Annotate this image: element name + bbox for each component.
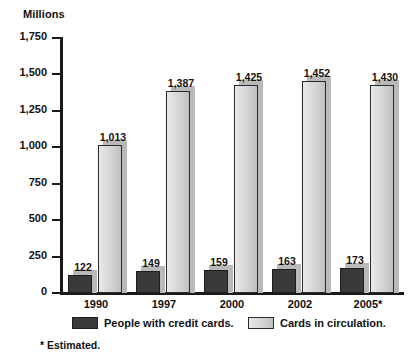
- bar-cards-in-circulation: 1,452: [302, 81, 326, 293]
- bar-people-with-credit-cards: 163: [272, 269, 296, 293]
- y-axis-tick-label: 0: [41, 285, 47, 297]
- x-axis-category-label: 2005*: [334, 298, 402, 310]
- bar-group: 1631,452: [266, 38, 334, 293]
- bar-value-label: 1,425: [236, 71, 262, 83]
- bar-chart: Millions 02505007501,0001,2501,5001,750 …: [0, 0, 410, 358]
- legend-swatch-light: [248, 317, 274, 329]
- y-axis-tick: 750: [52, 183, 61, 185]
- bar-value-label: 122: [74, 261, 92, 273]
- bar-cards-in-circulation: 1,425: [234, 85, 258, 293]
- bar-group: 1491,387: [130, 38, 198, 293]
- bar-cards-in-circulation: 1,013: [98, 145, 122, 293]
- legend-label-light: Cards in circulation.: [280, 317, 386, 329]
- x-axis-category-label: 1997: [130, 298, 198, 310]
- y-axis-tick-label: 1,500: [19, 66, 47, 78]
- y-axis-tick-label: 1,250: [19, 103, 47, 115]
- bar-cards-in-circulation: 1,430: [370, 85, 394, 293]
- bar-people-with-credit-cards: 159: [204, 270, 228, 293]
- y-axis-tick: 500: [52, 219, 61, 221]
- bar-people-with-credit-cards: 122: [68, 275, 92, 293]
- bar-value-label: 173: [346, 254, 364, 266]
- bar-value-label: 1,387: [168, 77, 194, 89]
- bar-people-with-credit-cards: 149: [136, 271, 160, 293]
- bar-people-with-credit-cards: 173: [340, 268, 364, 293]
- bar-value-label: 163: [278, 255, 296, 267]
- plot-area: 1221,0131491,3871591,4251631,4521731,430: [62, 38, 402, 293]
- y-axis-tick: 1,000: [52, 146, 61, 148]
- footnote-estimated: * Estimated.: [40, 339, 100, 351]
- y-axis-tick-label: 1,750: [19, 30, 47, 42]
- y-axis-tick: 0: [52, 292, 61, 294]
- y-axis-tick: 250: [52, 256, 61, 258]
- bar-group: 1591,425: [198, 38, 266, 293]
- y-axis-tick: 1,500: [52, 73, 61, 75]
- y-axis-tick-label: 250: [29, 249, 47, 261]
- legend-item-cards-in-circulation: Cards in circulation.: [248, 317, 386, 329]
- y-axis-tick-label: 500: [29, 212, 47, 224]
- bar-group: 1731,430: [334, 38, 402, 293]
- legend-swatch-dark: [72, 317, 98, 329]
- bar-value-label: 159: [210, 256, 228, 268]
- bar-value-label: 149: [142, 257, 160, 269]
- bar-cards-in-circulation: 1,387: [166, 91, 190, 293]
- bar-value-label: 1,013: [100, 131, 126, 143]
- y-axis-tick: 1,250: [52, 110, 61, 112]
- x-axis-category-label: 2000: [198, 298, 266, 310]
- bar-value-label: 1,452: [304, 67, 330, 79]
- y-axis-units-label: Millions: [23, 8, 65, 20]
- x-axis-category-label: 1990: [62, 298, 130, 310]
- y-axis-tick-label: 750: [29, 176, 47, 188]
- x-axis-category-label: 2002: [266, 298, 334, 310]
- bar-value-label: 1,430: [372, 71, 398, 83]
- legend-label-dark: People with credit cards.: [104, 317, 234, 329]
- y-axis-tick-label: 1,000: [19, 139, 47, 151]
- legend-item-people-with-credit-cards: People with credit cards.: [72, 317, 234, 329]
- chart-legend: People with credit cards. Cards in circu…: [0, 317, 410, 335]
- y-axis-tick: 1,750: [52, 37, 61, 39]
- bar-group: 1221,013: [62, 38, 130, 293]
